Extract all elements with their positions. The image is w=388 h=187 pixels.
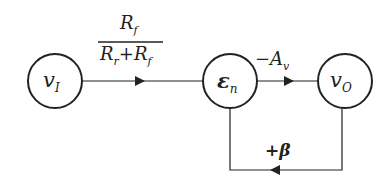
arrow-left-icon	[270, 165, 280, 175]
gain-Av: −Av	[255, 48, 289, 73]
edge-feedback	[230, 108, 342, 170]
arrow-right-icon	[135, 76, 145, 86]
node-vI-label: vI	[43, 68, 60, 95]
gain-denominator: Rr+Rf	[100, 43, 152, 68]
gain-numerator: Rf	[120, 12, 138, 37]
node-en-label: εn	[217, 68, 238, 96]
gain-beta: +β	[265, 140, 291, 160]
node-vO-label: vO	[330, 68, 352, 95]
arrow-right-icon	[284, 76, 294, 86]
